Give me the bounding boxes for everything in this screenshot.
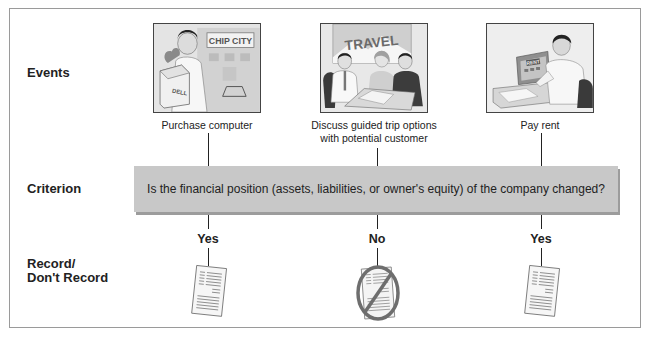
event-caption-purchase-computer: Purchase computer	[133, 119, 281, 132]
criterion-question: Is the financial position (assets, liabi…	[147, 182, 605, 196]
connector-criterion-to-answer1	[208, 215, 209, 229]
no-record-document-icon	[351, 262, 405, 328]
connector-criterion-to-answer2	[377, 215, 378, 229]
connector-event1-to-criterion	[208, 133, 209, 166]
record-document-icon	[188, 263, 232, 325]
pay-rent-illustration: RENT	[487, 24, 593, 112]
answer-event3: Yes	[521, 232, 561, 246]
event-caption-pay-rent: Pay rent	[466, 119, 614, 132]
row-label-record: Record/ Don't Record	[27, 257, 108, 285]
svg-text:CHIP CITY: CHIP CITY	[209, 36, 252, 46]
row-label-record-line1: Record/	[27, 257, 108, 271]
record-document-icon	[521, 263, 565, 325]
connector-event2-to-criterion	[377, 148, 378, 166]
criterion-banner: Is the financial position (assets, liabi…	[134, 166, 618, 212]
answer-event1: Yes	[188, 232, 228, 246]
row-label-events: Events	[27, 66, 70, 80]
event-caption-discuss-trip-line1: Discuss guided trip options	[300, 119, 448, 132]
purchase-computer-illustration: CHIP CITY DELL	[154, 24, 260, 112]
row-label-record-line2: Don't Record	[27, 271, 108, 285]
event-picture-pay-rent: RENT	[486, 23, 594, 113]
event-picture-discuss-trip: TRAVEL	[320, 23, 428, 113]
discuss-trip-illustration: TRAVEL	[321, 24, 427, 112]
event-picture-purchase-computer: CHIP CITY DELL	[153, 23, 261, 113]
row-label-criterion: Criterion	[27, 182, 81, 196]
event-caption-discuss-trip-line2: with potential customer	[300, 132, 448, 145]
event-caption-discuss-trip: Discuss guided trip options with potenti…	[300, 119, 448, 145]
connector-event3-to-criterion	[541, 133, 542, 166]
answer-event2: No	[357, 232, 397, 246]
connector-criterion-to-answer3	[541, 215, 542, 229]
